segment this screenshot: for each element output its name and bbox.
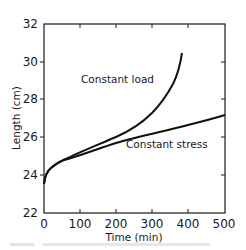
y-tick-label: 28 xyxy=(23,92,38,106)
x-axis-title: Time (min) xyxy=(104,231,162,243)
y-tick-label: 26 xyxy=(23,130,38,144)
figure-caption-cutoff xyxy=(10,243,210,246)
y-tick-label: 30 xyxy=(23,55,38,69)
x-tick-label: 200 xyxy=(105,217,128,231)
chart: 0 100 200 300 400 500 22 24 26 28 30 32 … xyxy=(0,0,246,250)
x-tick-label: 500 xyxy=(213,217,236,231)
y-axis-title: Length (cm) xyxy=(10,86,22,150)
annotation-constant-load: Constant load xyxy=(81,73,154,85)
y-tick-label: 24 xyxy=(23,168,38,182)
x-tick-label: 0 xyxy=(40,217,48,231)
x-ticks xyxy=(80,24,188,213)
y-tick-label: 22 xyxy=(23,206,38,220)
x-tick-label: 300 xyxy=(141,217,164,231)
x-tick-label: 400 xyxy=(177,217,200,231)
x-tick-label: 100 xyxy=(69,217,92,231)
plot-frame xyxy=(44,24,225,213)
annotation-constant-stress: Constant stress xyxy=(126,138,208,150)
y-tick-label: 32 xyxy=(23,17,38,31)
